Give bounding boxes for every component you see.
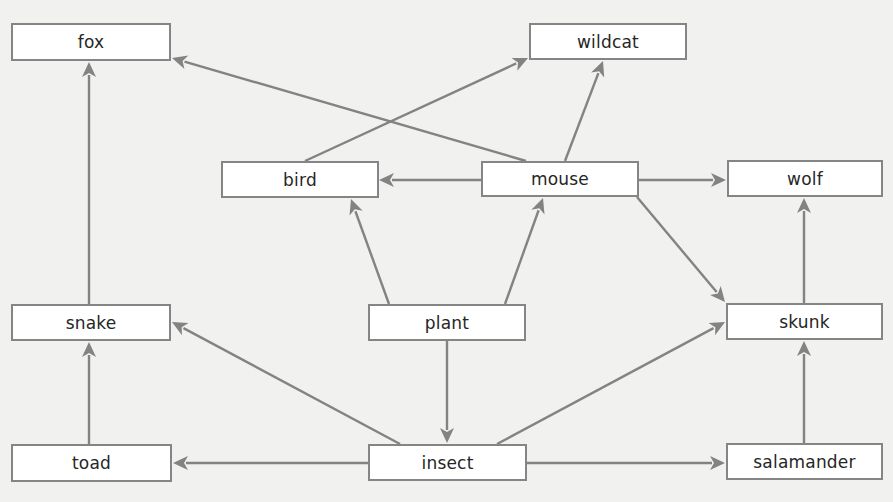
edge-mouse-to-fox <box>172 55 526 161</box>
node-toad: toad <box>11 444 172 482</box>
arrowhead-icon <box>797 341 811 356</box>
edge-insect-to-snake <box>172 322 400 444</box>
node-label: toad <box>72 453 111 473</box>
node-label: insect <box>421 453 473 473</box>
node-label: wildcat <box>577 32 639 52</box>
edge-line <box>505 210 539 304</box>
arrowhead-icon <box>797 198 811 213</box>
edge-insect-to-skunk <box>497 322 725 444</box>
edge-skunk-to-wolf <box>797 198 811 303</box>
node-label: bird <box>283 170 317 190</box>
edge-line <box>355 211 389 304</box>
edge-insect-to-salamander <box>527 456 725 470</box>
node-wolf: wolf <box>727 160 883 197</box>
edge-line <box>184 62 526 161</box>
arrowhead-icon <box>379 173 394 187</box>
edge-insect-to-toad <box>173 456 368 470</box>
edge-plant-to-bird <box>350 199 389 304</box>
node-fox: fox <box>11 23 171 61</box>
edge-mouse-to-skunk <box>637 197 725 302</box>
edge-salamander-to-skunk <box>797 341 811 443</box>
edge-plant-to-mouse <box>505 198 545 304</box>
arrowhead-icon <box>711 173 726 187</box>
edge-line <box>637 197 717 292</box>
edges-layer <box>0 0 893 502</box>
edge-line <box>565 73 598 161</box>
food-web-diagram: foxwildcatbirdmousewolfsnakeplantskunkto… <box>0 0 893 502</box>
node-skunk: skunk <box>726 303 883 340</box>
node-label: wolf <box>787 169 823 189</box>
node-label: fox <box>78 32 105 52</box>
edge-toad-to-snake <box>82 342 96 444</box>
arrowhead-icon <box>710 456 725 470</box>
edge-snake-to-fox <box>82 62 96 304</box>
node-label: mouse <box>531 169 589 189</box>
edge-line <box>497 328 714 444</box>
edge-mouse-to-wildcat <box>565 61 604 161</box>
edge-line <box>305 63 516 161</box>
edge-mouse-to-bird <box>379 173 481 187</box>
node-bird: bird <box>221 161 379 198</box>
arrowhead-icon <box>440 428 454 443</box>
node-insect: insect <box>368 444 527 481</box>
edge-plant-to-insect <box>440 341 454 443</box>
edge-line <box>183 328 400 444</box>
node-label: plant <box>425 313 469 333</box>
node-label: skunk <box>779 312 830 332</box>
arrowhead-icon <box>82 342 96 357</box>
node-salamander: salamander <box>726 443 883 480</box>
edge-mouse-to-wolf <box>639 173 726 187</box>
arrowhead-icon <box>82 62 96 77</box>
node-label: salamander <box>753 452 855 472</box>
node-mouse: mouse <box>481 161 639 197</box>
node-snake: snake <box>11 304 171 341</box>
arrowhead-icon <box>173 456 188 470</box>
node-wildcat: wildcat <box>529 23 687 60</box>
node-label: snake <box>66 313 117 333</box>
edge-bird-to-wildcat <box>305 58 528 161</box>
node-plant: plant <box>368 304 526 341</box>
